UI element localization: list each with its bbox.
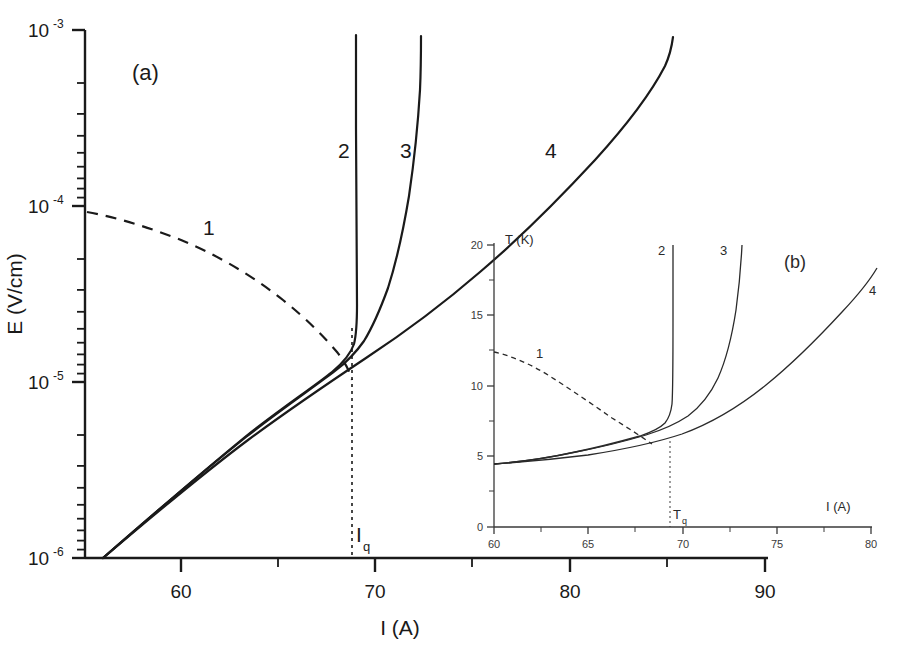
panel-b-curve-2 bbox=[494, 245, 673, 464]
panel-a-label: (a) bbox=[132, 60, 159, 85]
panel-b-curve-label-2: 2 bbox=[658, 243, 665, 258]
panel-a-xtick-60: 60 bbox=[170, 581, 191, 602]
panel-b-axes bbox=[487, 243, 872, 534]
panel-a-y-axis-title: E (V/cm) bbox=[3, 253, 26, 335]
panel-a-x-tick-labels: 60 70 80 90 bbox=[170, 581, 775, 602]
panel-b-x-major-ticks bbox=[494, 527, 871, 534]
panel-b-tq-subscript: q bbox=[682, 516, 687, 526]
panel-a-ytick-exp-1e-3: -3 bbox=[53, 17, 64, 31]
panel-a-xtick-90: 90 bbox=[754, 581, 775, 602]
panel-b-ytick-0: 0 bbox=[477, 521, 483, 533]
panel-b-curve-4 bbox=[494, 268, 877, 464]
panel-a-ytick-exp-1e-4: -4 bbox=[53, 193, 64, 207]
panel-b-curve-label-1: 1 bbox=[536, 346, 543, 361]
panel-b-curve-1 bbox=[494, 352, 652, 444]
panel-a-x-major-ticks bbox=[181, 558, 765, 572]
panel-b-y-axis-title: T (K) bbox=[505, 232, 534, 247]
panel-b-tq-label: T bbox=[673, 507, 681, 522]
panel-b-x-tick-labels: 60 65 70 75 80 bbox=[488, 538, 877, 550]
panel-b-curve-label-4: 4 bbox=[869, 283, 876, 298]
panel-b-curve-label-3: 3 bbox=[720, 243, 727, 258]
panel-b-xtick-65: 65 bbox=[582, 538, 594, 550]
panel-a-curve-label-4: 4 bbox=[545, 139, 557, 162]
panel-b-xtick-75: 75 bbox=[771, 538, 783, 550]
panel-b-y-major-ticks bbox=[487, 245, 494, 527]
panel-a-ytick-exp-1e-5: -5 bbox=[53, 369, 64, 383]
panel-b-xtick-80: 80 bbox=[865, 538, 877, 550]
panel-a-y-major-ticks bbox=[72, 30, 85, 558]
panel-a-axes bbox=[72, 30, 768, 572]
panel-a-curve-3 bbox=[103, 36, 421, 558]
panel-b-xtick-70: 70 bbox=[677, 538, 689, 550]
panel-a-curve-4 bbox=[103, 37, 673, 558]
figure-svg: 10 -3 10 -4 10 -5 10 -6 60 70 80 90 I (A… bbox=[0, 0, 901, 650]
panel-b-y-tick-labels: 20 15 10 5 0 bbox=[471, 239, 483, 533]
panel-a-ytick-exp-1e-6: -6 bbox=[53, 545, 64, 559]
panel-a-y-tick-labels: 10 -3 10 -4 10 -5 10 -6 bbox=[28, 17, 64, 569]
panel-a-iq-label: I bbox=[356, 523, 362, 546]
panel-b-x-axis-title: I (A) bbox=[826, 499, 851, 514]
panel-b-ytick-20: 20 bbox=[471, 239, 483, 251]
panel-a-curve-2 bbox=[103, 35, 357, 558]
panel-a-xtick-80: 80 bbox=[559, 581, 580, 602]
panel-a-x-minor-ticks bbox=[278, 558, 667, 567]
panel-a-ytick-1e-5: 10 bbox=[28, 372, 49, 393]
panel-b-ytick-15: 15 bbox=[471, 309, 483, 321]
panel-b-ytick-5: 5 bbox=[477, 450, 483, 462]
panel-a-curve-label-2: 2 bbox=[338, 139, 350, 162]
panel-a-ytick-1e-6: 10 bbox=[28, 548, 49, 569]
panel-b-label: (b) bbox=[784, 252, 806, 272]
panel-a-curve-label-3: 3 bbox=[400, 139, 412, 162]
panel-b-ytick-10: 10 bbox=[471, 380, 483, 392]
panel-b-curve-3 bbox=[494, 245, 742, 464]
panel-a-curve-1 bbox=[87, 212, 352, 380]
panel-a-curve-label-1: 1 bbox=[203, 216, 215, 239]
panel-a-iq-subscript: q bbox=[363, 539, 370, 554]
panel-a-ytick-1e-4: 10 bbox=[28, 196, 49, 217]
panel-a-x-axis-title: I (A) bbox=[380, 616, 420, 639]
panel-b-xtick-60: 60 bbox=[488, 538, 500, 550]
panel-a-xtick-70: 70 bbox=[364, 581, 385, 602]
figure-canvas: 10 -3 10 -4 10 -5 10 -6 60 70 80 90 I (A… bbox=[0, 0, 901, 650]
panel-a-ytick-1e-3: 10 bbox=[28, 20, 49, 41]
